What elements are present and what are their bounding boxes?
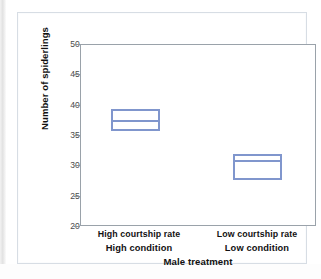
y-axis-title: Number of spiderlings — [39, 19, 50, 139]
x-label-high-courtship-rate: High courtship rate — [80, 229, 198, 239]
x-label-low-condition: Low condition — [198, 243, 316, 253]
box-rect-low-courtship — [233, 154, 282, 180]
box-mean-line-low-courtship — [233, 160, 282, 162]
page-edge-artifact — [0, 0, 6, 279]
x-axis-title: Male treatment — [80, 256, 316, 267]
y-tick-mark-20 — [74, 226, 80, 227]
x-label-high-condition: High condition — [80, 243, 198, 253]
box-mean-line-high-courtship — [111, 120, 160, 122]
plot-area — [80, 44, 316, 226]
figure-frame: 50 45 40 35 30 25 20 Number of spiderlin… — [17, 12, 307, 264]
x-label-low-courtship-rate: Low courtship rate — [198, 229, 316, 239]
